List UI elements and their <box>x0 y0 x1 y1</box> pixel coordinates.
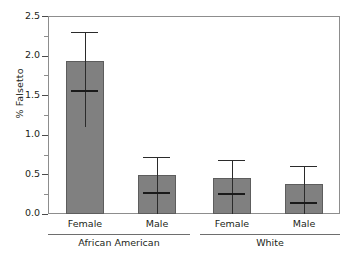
error-bar-stem-african-american-female <box>85 32 86 127</box>
x-category-label-african-american-male: Male <box>132 218 182 229</box>
error-bar-cap-lower-african-american-female <box>71 90 98 92</box>
error-bar-cap-lower-white-male <box>290 202 317 204</box>
group-rule-african-american <box>48 234 190 235</box>
error-bar-cap-upper-african-american-female <box>71 32 98 33</box>
y-tick-label-0-0: 0.0 <box>6 208 40 218</box>
group-rule-white <box>200 234 340 235</box>
y-tick-major <box>42 214 48 215</box>
group-label-african-american: African American <box>48 237 190 248</box>
y-tick-minor <box>44 194 48 195</box>
error-bar-cap-upper-white-female <box>218 160 245 161</box>
y-tick-label-2-5: 2.5 <box>6 11 40 21</box>
x-category-label-african-american-female: Female <box>60 218 110 229</box>
x-category-label-white-male: Male <box>279 218 329 229</box>
error-bar-cap-upper-white-male <box>290 166 317 167</box>
bar-chart-figure: % Falsetto 2.5 2.0 1.5 1.0 0.5 0.0 Femal… <box>0 0 353 263</box>
x-category-label-white-female: Female <box>207 218 257 229</box>
y-tick-major <box>42 56 48 57</box>
group-label-white: White <box>200 237 340 248</box>
y-tick-minor <box>44 155 48 156</box>
y-tick-minor <box>44 36 48 37</box>
y-tick-major <box>42 16 48 17</box>
y-tick-label-1-0: 1.0 <box>6 129 40 139</box>
error-bar-cap-lower-white-female <box>218 193 245 195</box>
y-tick-major <box>42 135 48 136</box>
y-tick-label-0-5: 0.5 <box>6 169 40 179</box>
error-bar-cap-upper-african-american-male <box>143 157 170 158</box>
y-tick-minor <box>44 115 48 116</box>
error-bar-stem-white-female <box>232 160 233 214</box>
error-bar-stem-white-male <box>304 166 305 214</box>
error-bar-stem-african-american-male <box>157 157 158 214</box>
y-tick-label-2-0: 2.0 <box>6 50 40 60</box>
y-tick-major <box>42 95 48 96</box>
y-tick-minor <box>44 75 48 76</box>
y-tick-major <box>42 174 48 175</box>
y-tick-label-1-5: 1.5 <box>6 90 40 100</box>
error-bar-cap-lower-african-american-male <box>143 192 170 194</box>
